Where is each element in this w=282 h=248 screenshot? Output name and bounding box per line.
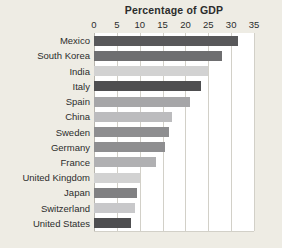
x-tick-label: 25: [203, 19, 214, 30]
bar: [94, 188, 137, 198]
bar-row: [94, 79, 254, 94]
y-tick-label: Spain: [0, 96, 90, 107]
bar-row: [94, 216, 254, 231]
y-tick-label: Switzerland: [0, 203, 90, 214]
bar: [94, 36, 238, 46]
y-tick-label: Germany: [0, 142, 90, 153]
bar: [94, 157, 156, 167]
y-tick-label: Sweden: [0, 127, 90, 138]
bar: [94, 173, 140, 183]
bar: [94, 97, 190, 107]
bar-row: [94, 185, 254, 200]
y-tick-label: China: [0, 111, 90, 122]
bars-layer: [94, 33, 254, 231]
x-tick-label: 20: [180, 19, 191, 30]
x-tick-label: 15: [157, 19, 168, 30]
bar: [94, 51, 222, 61]
y-tick-label: United Kingdom: [0, 172, 90, 183]
x-tick-label: 0: [91, 19, 96, 30]
y-tick-label: South Korea: [0, 50, 90, 61]
bar: [94, 203, 135, 213]
x-tick-label: 10: [134, 19, 145, 30]
plot-baseline: [94, 231, 254, 232]
x-axis-tick-labels: 05101520253035: [0, 19, 282, 32]
x-tick-label: 30: [226, 19, 237, 30]
y-tick-label: United States: [0, 218, 90, 229]
bar-row: [94, 33, 254, 48]
bar-row: [94, 94, 254, 109]
bar-row: [94, 48, 254, 63]
bar: [94, 127, 169, 137]
bar-row: [94, 140, 254, 155]
y-tick-label: France: [0, 157, 90, 168]
y-tick-label: Mexico: [0, 35, 90, 46]
bar: [94, 66, 208, 76]
plot-area: [94, 33, 254, 231]
bar: [94, 142, 165, 152]
y-axis-category-labels: MexicoSouth KoreaIndiaItalySpainChinaSwe…: [0, 33, 90, 231]
bar-row: [94, 170, 254, 185]
y-tick-label: Japan: [0, 187, 90, 198]
bar-row: [94, 109, 254, 124]
y-tick-label: India: [0, 66, 90, 77]
bar-row: [94, 63, 254, 78]
x-tick-label: 5: [114, 19, 119, 30]
bar-row: [94, 201, 254, 216]
bar: [94, 218, 131, 228]
bar-chart-figure: Percentage of GDP 05101520253035 MexicoS…: [0, 0, 282, 248]
bar: [94, 81, 201, 91]
y-tick-label: Italy: [0, 81, 90, 92]
bar: [94, 112, 172, 122]
x-tick-label: 35: [249, 19, 260, 30]
gridline: [254, 33, 255, 231]
chart-title: Percentage of GDP: [94, 4, 254, 16]
bar-row: [94, 155, 254, 170]
bar-row: [94, 124, 254, 139]
